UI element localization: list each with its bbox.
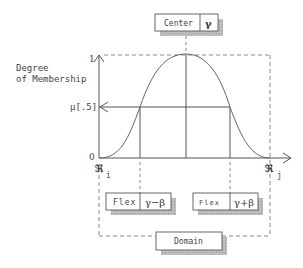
y-tick-half: μ[.5] [70,102,97,112]
x-right-subscript: j [277,171,282,180]
flex-left-box-value: γ−β [145,197,165,208]
y-tick-zero: 0 [89,152,95,162]
domain-box-label: Domain [174,237,203,246]
center-box: Center γ [155,14,223,36]
center-box-label: Center [164,19,193,28]
flex-right-box-value: γ+β [234,197,254,208]
y-axis-label-line2: of Membership [16,74,86,84]
membership-curve [99,54,270,158]
domain-box: Domain [156,232,227,255]
flex-left-box: Flex γ−β [106,193,176,215]
y-tick-one: 1 [89,54,95,64]
membership-function-diagram: Degree of Membership 1 μ[.5] 0 ℜ i ℜ j C… [0,0,303,268]
y-axis-label-line1: Degree [16,63,49,73]
flex-right-box: Flex γ+β [193,193,263,215]
center-box-value: γ [205,18,212,29]
flex-right-box-label: Flex [199,199,220,207]
flex-left-box-label: Flex [113,198,136,207]
x-left-subscript: i [106,171,111,180]
x-right-symbol: ℜ [265,163,274,174]
x-left-symbol: ℜ [95,163,104,174]
